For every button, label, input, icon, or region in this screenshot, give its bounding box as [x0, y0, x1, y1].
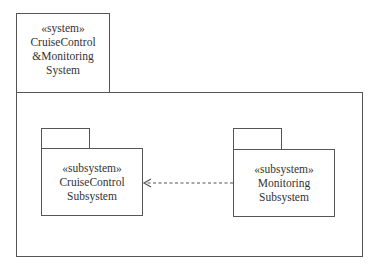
dependency-arrow	[0, 0, 375, 269]
